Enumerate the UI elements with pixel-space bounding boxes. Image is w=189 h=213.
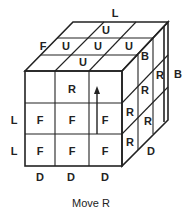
outer-label-bottom: D — [101, 171, 109, 183]
front-label: F — [102, 145, 109, 157]
outer-label-top: L — [112, 7, 119, 19]
top-label-U: U — [79, 56, 87, 68]
top-label-U: U — [62, 40, 70, 52]
right-label: R — [144, 115, 152, 127]
outer-label-right: B — [174, 68, 182, 80]
outer-label-bottom: D — [67, 171, 75, 183]
top-label-U: U — [94, 40, 102, 52]
front-label: R — [68, 83, 76, 95]
outer-label-left: L — [11, 114, 18, 126]
front-label: F — [69, 114, 76, 126]
front-label: F — [69, 145, 76, 157]
right-label: R — [126, 106, 134, 118]
outer-label-bottom: D — [36, 171, 44, 183]
outer-label-left: L — [11, 145, 18, 157]
cube-diagram: U U U U U R F F F F F F B R R R R R L F … — [0, 0, 189, 213]
right-label: R — [156, 69, 164, 81]
right-label: B — [141, 50, 149, 62]
outer-label-bottom-right: D — [147, 145, 155, 157]
front-label: F — [102, 114, 109, 126]
top-label-U: U — [102, 24, 110, 36]
right-label: R — [126, 136, 134, 148]
caption: Move R — [72, 197, 110, 209]
up-arrow-icon — [94, 86, 100, 134]
front-label: F — [37, 114, 44, 126]
front-label: F — [37, 145, 44, 157]
right-label: R — [141, 84, 149, 96]
top-label-U: U — [125, 40, 133, 52]
outer-label-top-left: F — [40, 40, 47, 52]
